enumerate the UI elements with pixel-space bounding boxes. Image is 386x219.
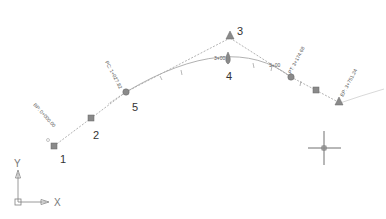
point-number-2: 2 xyxy=(93,129,99,141)
station-label-pc: PC: 1+027.82 xyxy=(104,60,124,90)
point-2-marker[interactable] xyxy=(88,115,94,121)
ucs-x-label: X xyxy=(54,197,61,208)
curve-station-label-2: 3+00 xyxy=(269,62,280,68)
curve-station-label-1: 3+00 xyxy=(214,55,225,61)
ucs-y-label: Y xyxy=(14,158,21,169)
drawing-canvas[interactable]: BP: 0+000.00 PC: 1+027.82 PT: 3+174.68 E… xyxy=(0,0,386,219)
point-number-3: 3 xyxy=(237,25,243,37)
station-label-pt: PT: 3+174.68 xyxy=(287,45,306,74)
ep-marker[interactable] xyxy=(335,97,343,105)
station-label-ep: EP: 3+751.24 xyxy=(339,68,359,98)
point-5-marker[interactable] xyxy=(123,89,129,95)
point-1-marker[interactable] xyxy=(51,143,57,149)
point-number-4: 4 xyxy=(226,70,232,82)
point-number-5: 5 xyxy=(132,101,138,113)
point-3-marker[interactable] xyxy=(226,31,234,39)
point-number-1: 1 xyxy=(60,153,66,165)
crosshair-cursor xyxy=(308,131,341,165)
point-4-marker[interactable] xyxy=(226,52,231,64)
station-label-bp: BP: 0+000.00 xyxy=(32,102,57,129)
point-6-marker[interactable] xyxy=(313,87,319,93)
alignment-curve[interactable] xyxy=(126,57,291,92)
ucs-icon xyxy=(15,170,49,205)
point-1-small-circle xyxy=(47,139,50,142)
